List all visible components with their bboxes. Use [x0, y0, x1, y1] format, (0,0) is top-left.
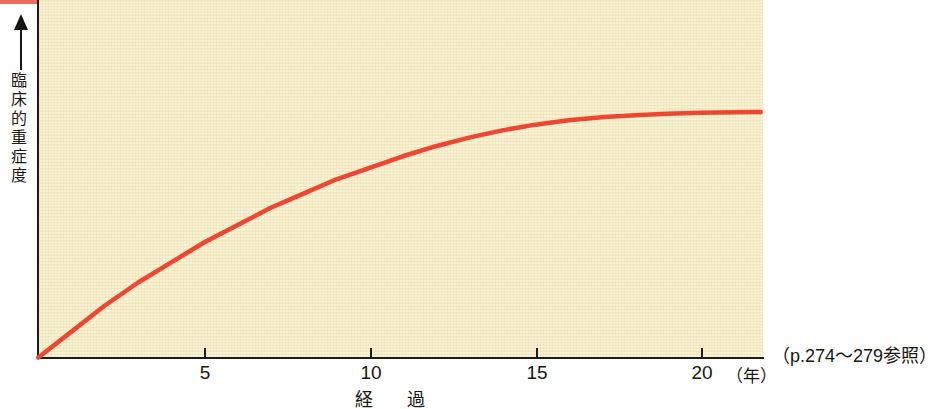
- y-axis-title-char: 床: [8, 90, 30, 109]
- plot-area: [39, 0, 763, 358]
- x-axis-tick: [370, 348, 372, 358]
- reference-note: （p.274〜279参照）: [772, 341, 936, 367]
- x-axis-tick-label: 10: [341, 362, 401, 384]
- x-axis-tick: [204, 348, 206, 358]
- x-axis-tick-label: 15: [507, 362, 567, 384]
- x-axis-title: 経 過: [355, 385, 433, 409]
- y-axis-line: [37, 0, 39, 359]
- x-axis-tick: [536, 348, 538, 358]
- figure-container: 臨 床 的 重 症 度 5 10 15 20 （年） 経 過 （p.274〜27…: [0, 0, 936, 409]
- x-axis-line: [37, 357, 764, 359]
- x-axis-tick-label: 20: [672, 362, 732, 384]
- x-axis-unit-label: （年）: [726, 362, 777, 387]
- y-axis-arrow-icon: [14, 14, 28, 70]
- y-axis-title-char: 症: [8, 147, 30, 166]
- y-axis-title-char: 臨: [8, 71, 30, 90]
- arrow-shaft-icon: [20, 26, 22, 70]
- y-axis-title-char: 的: [8, 109, 30, 128]
- y-axis-title-char: 度: [8, 166, 30, 185]
- y-axis-title: 臨 床 的 重 症 度: [8, 71, 30, 185]
- x-axis-tick-label: 5: [175, 362, 235, 384]
- x-axis-tick: [701, 348, 703, 358]
- y-axis-title-char: 重: [8, 128, 30, 147]
